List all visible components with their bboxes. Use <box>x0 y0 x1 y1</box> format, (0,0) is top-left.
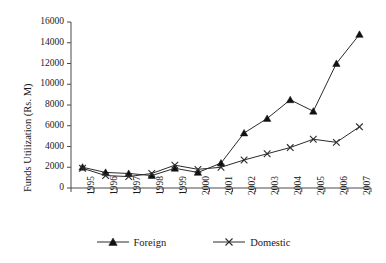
series-line-domestic <box>83 127 360 177</box>
data-point-domestic <box>264 150 271 157</box>
plot-area <box>0 0 386 263</box>
legend-item-foreign: Foreign <box>96 236 167 248</box>
legend-marker-domestic-icon <box>212 236 246 248</box>
series-line-foreign <box>83 34 360 175</box>
data-point-domestic <box>241 157 248 164</box>
chart-legend: Foreign Domestic <box>0 236 386 248</box>
data-point-foreign <box>287 96 294 103</box>
data-point-foreign <box>240 129 247 136</box>
data-point-foreign <box>310 108 317 115</box>
data-point-domestic <box>356 123 363 130</box>
legend-marker-foreign-icon <box>96 236 130 248</box>
axes <box>67 22 371 192</box>
data-series <box>79 31 363 180</box>
legend-label-foreign: Foreign <box>134 237 167 248</box>
legend-label-domestic: Domestic <box>250 237 290 248</box>
data-point-domestic <box>287 144 294 151</box>
funds-utilization-line-chart: Funds Utilization (Rs. M) 02000400060008… <box>0 0 386 263</box>
data-point-foreign <box>356 31 363 37</box>
legend-item-domestic: Domestic <box>212 236 290 248</box>
